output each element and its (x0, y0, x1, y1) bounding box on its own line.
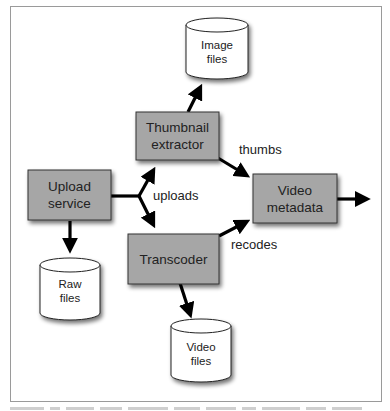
edge-thumbnail-to-image-files (188, 88, 200, 112)
node-upload-service-label-2: service (48, 196, 91, 211)
datastore-raw-files-label-2: files (60, 292, 81, 304)
datastore-image-files-label-1: Image (201, 39, 233, 51)
edge-transcoder-to-video-files (180, 283, 190, 314)
edge-transcoder-to-video-metadata (219, 222, 246, 236)
node-upload-service (28, 170, 111, 220)
node-video-metadata-label-1: Video (278, 183, 312, 198)
edge-label-uploads: uploads (153, 188, 199, 203)
node-thumbnail-extractor-label-1: Thumbnail (146, 120, 209, 135)
caption-clipped (10, 405, 380, 411)
node-upload-service-label-1: Upload (48, 179, 91, 194)
diagram-canvas: uploads thumbs recodes Thumbnail extract… (0, 0, 390, 411)
datastore-video-files-label-1: Video (186, 341, 215, 353)
node-video-metadata-label-2: metadata (267, 200, 324, 215)
node-video-metadata (253, 174, 337, 223)
edge-label-recodes: recodes (231, 237, 278, 252)
edge-upload-to-thumbnail (139, 171, 153, 196)
node-thumbnail-extractor-label-2: extractor (151, 137, 204, 152)
datastore-video-files-label-2: files (191, 355, 212, 367)
node-transcoder-label: Transcoder (140, 252, 208, 267)
edge-thumbnail-to-video-metadata (218, 158, 246, 175)
edge-label-thumbs: thumbs (239, 142, 282, 157)
datastore-raw-files-label-1: Raw (58, 278, 82, 290)
edge-upload-to-transcoder (139, 196, 153, 224)
datastore-image-files-label-2: files (207, 53, 228, 65)
